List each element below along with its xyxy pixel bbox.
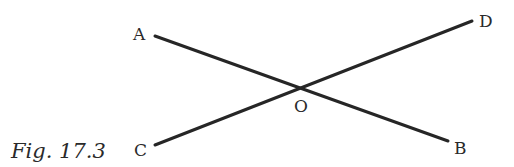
- point-label-O: O: [294, 96, 308, 116]
- intersecting-lines-diagram: A B C D O Fig. 17.3: [0, 0, 514, 167]
- point-label-A: A: [132, 24, 146, 44]
- line-CD: [155, 21, 472, 145]
- figure-caption: Fig. 17.3: [10, 139, 106, 163]
- point-label-D: D: [479, 11, 493, 31]
- point-label-C: C: [134, 140, 147, 160]
- point-label-B: B: [454, 138, 467, 158]
